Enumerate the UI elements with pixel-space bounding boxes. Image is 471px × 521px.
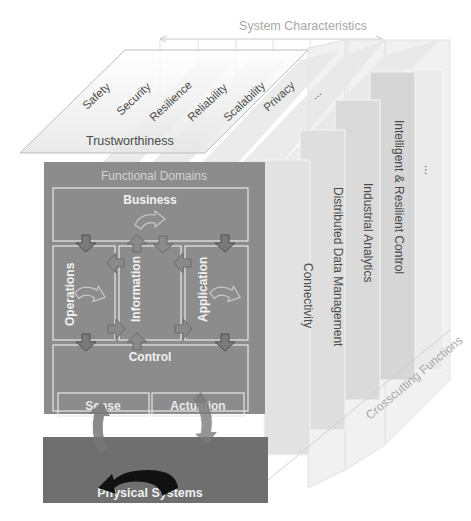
application-label: Application — [196, 257, 210, 322]
iiot-functional-architecture-diagram: System Characteristics Intelligent & Res… — [0, 0, 471, 521]
information-label: Information — [129, 256, 143, 322]
label-connectivity: Connectivity — [301, 263, 315, 328]
functional-domains-title: Functional Domains — [101, 169, 207, 183]
trustworthiness-label: Trustworthiness — [86, 134, 174, 148]
control-label: Control — [129, 350, 172, 364]
label-intelligent-resilient-control: Intelligent & Resilient Control — [392, 120, 406, 274]
label-industrial-analytics: Industrial Analytics — [361, 183, 375, 282]
operations-label: Operations — [63, 262, 77, 326]
label-more-functions: ... — [422, 165, 436, 175]
label-distributed-data-management: Distributed Data Management — [331, 187, 345, 347]
system-characteristics-title: System Characteristics — [239, 19, 367, 33]
business-label: Business — [123, 193, 177, 207]
